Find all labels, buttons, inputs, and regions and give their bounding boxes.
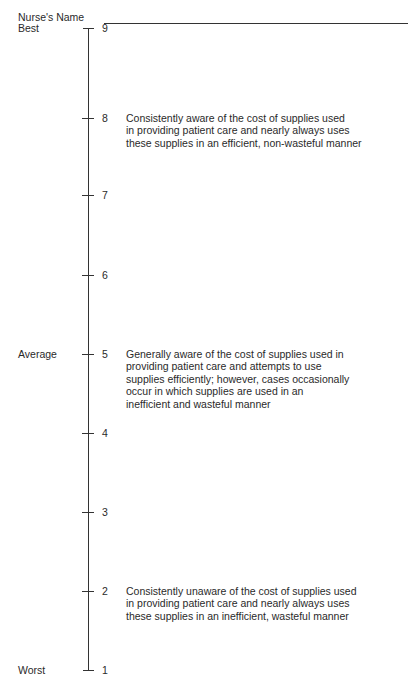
description-line: inefficient and wasteful manner (126, 398, 396, 410)
tick-9[interactable] (83, 28, 94, 29)
description-line: Consistently unaware of the cost of supp… (126, 585, 396, 597)
tick-1[interactable] (83, 670, 94, 671)
tick-5[interactable] (82, 354, 94, 355)
tick-label-1: 1 (102, 664, 108, 676)
description-line: these supplies in an inefficient, wastef… (126, 610, 396, 622)
description-line: supplies efficiently; however, cases occ… (126, 373, 396, 385)
nurse-name-field[interactable]: Nurse's Name (18, 11, 408, 25)
description-line: providing patient care and attempts to u… (126, 360, 396, 372)
tick-label-4: 4 (102, 427, 108, 439)
tick-3[interactable] (82, 512, 94, 513)
anchor-best: Best (18, 22, 39, 34)
tick-label-2: 2 (102, 585, 108, 597)
description-line: in providing patient care and nearly alw… (126, 124, 396, 136)
description-5: Generally aware of the cost of supplies … (126, 348, 396, 410)
tick-label-6: 6 (102, 269, 108, 281)
tick-2[interactable] (82, 591, 94, 592)
anchor-average: Average (18, 348, 57, 360)
tick-8[interactable] (82, 118, 94, 119)
description-line: in providing patient care and nearly alw… (126, 597, 396, 609)
anchor-worst: Worst (18, 664, 45, 676)
tick-6[interactable] (82, 275, 94, 276)
tick-label-9: 9 (102, 22, 108, 34)
description-8: Consistently aware of the cost of suppli… (126, 112, 396, 149)
tick-label-7: 7 (102, 189, 108, 201)
tick-label-3: 3 (102, 506, 108, 518)
description-2: Consistently unaware of the cost of supp… (126, 585, 396, 622)
tick-7[interactable] (82, 195, 94, 196)
tick-4[interactable] (82, 433, 94, 434)
description-line: these supplies in an efficient, non-wast… (126, 137, 396, 149)
nurse-name-line[interactable] (104, 23, 408, 24)
description-line: occur in which supplies are used in an (126, 385, 396, 397)
tick-label-8: 8 (102, 112, 108, 124)
description-line: Generally aware of the cost of supplies … (126, 348, 396, 360)
tick-label-5: 5 (102, 348, 108, 360)
description-line: Consistently aware of the cost of suppli… (126, 112, 396, 124)
rating-scale-axis (88, 28, 89, 670)
